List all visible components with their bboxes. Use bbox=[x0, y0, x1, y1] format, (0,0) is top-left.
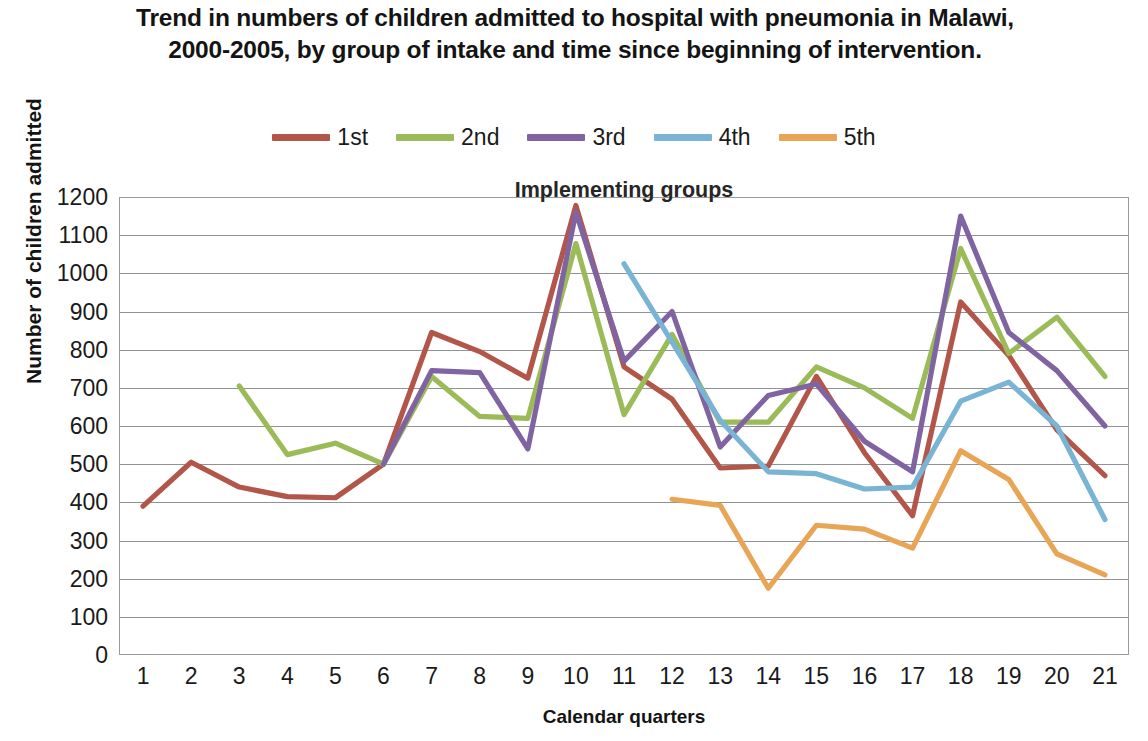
x-tick-label: 1 bbox=[118, 663, 168, 690]
y-tick-label: 900 bbox=[18, 298, 108, 325]
y-tick-label: 1200 bbox=[18, 184, 108, 211]
x-tick-label: 4 bbox=[262, 663, 312, 690]
x-tick-label: 7 bbox=[407, 663, 457, 690]
legend-swatch-icon bbox=[779, 134, 837, 141]
y-tick-label: 100 bbox=[18, 603, 108, 630]
page-title: Trend in numbers of children admitted to… bbox=[120, 2, 1030, 66]
y-tick-label: 800 bbox=[18, 336, 108, 363]
y-tick-label: 300 bbox=[18, 527, 108, 554]
y-tick-label: 700 bbox=[18, 374, 108, 401]
x-tick-label: 10 bbox=[551, 663, 601, 690]
plot-area bbox=[119, 197, 1129, 655]
chart-container: Trend in numbers of children admitted to… bbox=[0, 0, 1148, 741]
legend-entry-5th[interactable]: 5th bbox=[779, 126, 876, 149]
series-line-2nd bbox=[239, 244, 1105, 465]
legend-label: 2nd bbox=[461, 126, 499, 149]
x-tick-label: 20 bbox=[1032, 663, 1082, 690]
x-tick-label: 8 bbox=[455, 663, 505, 690]
y-tick-label: 1000 bbox=[18, 260, 108, 287]
x-tick-label: 9 bbox=[503, 663, 553, 690]
x-tick-label: 6 bbox=[359, 663, 409, 690]
y-tick-label: 600 bbox=[18, 413, 108, 440]
x-tick-label: 12 bbox=[647, 663, 697, 690]
legend-label: 3rd bbox=[592, 126, 625, 149]
x-tick-label: 16 bbox=[839, 663, 889, 690]
x-tick-label: 17 bbox=[888, 663, 938, 690]
x-tick-label: 19 bbox=[984, 663, 1034, 690]
y-tick-label: 200 bbox=[18, 565, 108, 592]
legend-label: 4th bbox=[719, 126, 751, 149]
x-tick-label: 11 bbox=[599, 663, 649, 690]
legend-label: 5th bbox=[844, 126, 876, 149]
x-tick-label: 5 bbox=[310, 663, 360, 690]
y-tick-label: 0 bbox=[18, 642, 108, 669]
legend-swatch-icon bbox=[396, 134, 454, 141]
legend-entry-1st[interactable]: 1st bbox=[272, 126, 368, 149]
legend-entry-2nd[interactable]: 2nd bbox=[396, 126, 499, 149]
x-axis-title: Calendar quarters bbox=[119, 706, 1129, 728]
series-line-5th bbox=[672, 451, 1105, 588]
y-tick-label: 400 bbox=[18, 489, 108, 516]
legend-entry-3rd[interactable]: 3rd bbox=[527, 126, 625, 149]
legend-label: 1st bbox=[337, 126, 368, 149]
y-tick-label: 1100 bbox=[18, 222, 108, 249]
legend-entry-4th[interactable]: 4th bbox=[654, 126, 751, 149]
x-tick-label: 14 bbox=[743, 663, 793, 690]
legend-swatch-icon bbox=[527, 134, 585, 141]
x-tick-label: 18 bbox=[936, 663, 986, 690]
x-axis-tick-labels: 123456789101112131415161718192021 bbox=[119, 663, 1129, 699]
series-lines bbox=[119, 197, 1129, 655]
x-tick-label: 21 bbox=[1080, 663, 1130, 690]
x-tick-label: 15 bbox=[791, 663, 841, 690]
x-tick-label: 2 bbox=[166, 663, 216, 690]
legend-swatch-icon bbox=[272, 134, 330, 141]
y-tick-label: 500 bbox=[18, 451, 108, 478]
x-tick-label: 13 bbox=[695, 663, 745, 690]
chart-legend: 1st2nd3rd4th5th bbox=[0, 126, 1148, 149]
legend-swatch-icon bbox=[654, 134, 712, 141]
x-tick-label: 3 bbox=[214, 663, 264, 690]
